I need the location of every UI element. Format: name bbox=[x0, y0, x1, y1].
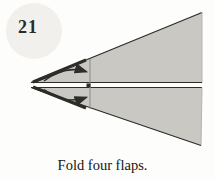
center-crease-mark bbox=[87, 84, 91, 88]
origami-diagram bbox=[0, 0, 215, 180]
caption: Fold four flaps. bbox=[0, 157, 205, 174]
origami-step-page: 21 bbox=[0, 0, 215, 180]
